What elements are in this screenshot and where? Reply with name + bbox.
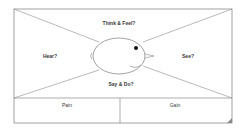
- diagonal-bottom-left: [14, 70, 99, 98]
- diagonal-top-right: [143, 9, 232, 42]
- gain-label: Gain: [170, 102, 181, 108]
- think-feel-label: Think & Feel?: [103, 20, 136, 26]
- pain-label: Pain: [62, 102, 72, 108]
- head-icon: [91, 38, 155, 74]
- hear-label: Hear?: [43, 53, 57, 59]
- diagonal-bottom-right: [143, 66, 232, 98]
- resize-corner-icon: [227, 118, 232, 123]
- say-do-label: Say & Do?: [108, 81, 133, 87]
- diagonal-top-left: [14, 9, 99, 42]
- see-label: See?: [182, 53, 194, 59]
